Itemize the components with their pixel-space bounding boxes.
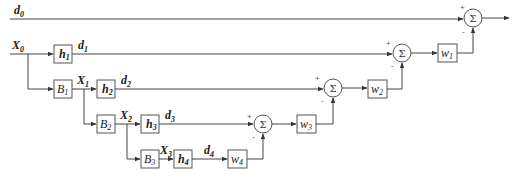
minus-sign: - <box>462 27 465 36</box>
block-diagram: d0 Σ + - X0 h1 d1 B1 X1 h2 d2 B2 X2 h3 d… <box>0 0 516 181</box>
minus-sign: - <box>252 132 255 141</box>
sigma-icon: Σ <box>398 48 405 59</box>
plus-sign: + <box>460 3 465 12</box>
minus-sign: - <box>321 96 324 105</box>
label-d4: d4 <box>204 143 214 159</box>
label-d0: d0 <box>14 3 24 19</box>
plus-sign: + <box>386 39 391 48</box>
label-d1: d1 <box>78 38 88 54</box>
sigma-icon: Σ <box>329 83 336 94</box>
label-X3: X3 <box>159 143 172 159</box>
sigma-icon: Σ <box>259 119 266 130</box>
w4-to-summer3 <box>247 134 263 159</box>
plus-sign: + <box>247 112 252 121</box>
sigma-icon: Σ <box>469 13 476 24</box>
label-d2: d2 <box>121 73 131 89</box>
w1-to-summer0 <box>457 28 473 53</box>
plus-sign: + <box>315 74 320 83</box>
label-X0: X0 <box>11 38 24 54</box>
label-X1: X1 <box>76 73 89 89</box>
w2-to-summer1 <box>387 63 402 89</box>
minus-sign: - <box>391 61 394 70</box>
label-d3: d3 <box>165 108 175 124</box>
w3-to-summer2 <box>316 98 333 124</box>
label-X2: X2 <box>119 108 132 124</box>
